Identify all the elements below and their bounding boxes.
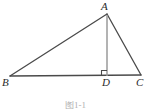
vertex-label-b: B [2,77,9,88]
vertex-label-c: C [136,77,143,88]
segment-bc [10,75,141,76]
figure-caption: 图1-1 [0,101,151,109]
segment-ab [10,14,107,76]
segment-ac [107,14,141,75]
triangle-diagram [0,0,151,109]
geometry-figure: A B D C 图1-1 [0,0,151,109]
vertex-label-a: A [101,1,108,12]
vertex-label-d: D [102,77,110,88]
